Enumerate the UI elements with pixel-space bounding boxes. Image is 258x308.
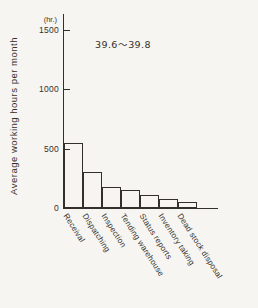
plot-area bbox=[63, 14, 218, 209]
bar-receival bbox=[64, 143, 83, 208]
bar-status-reports bbox=[140, 195, 159, 208]
y-tick-label: 1000 bbox=[19, 84, 59, 94]
bar-dispatching bbox=[83, 172, 102, 208]
bar-chart-figure: Average working hours per month (hr.) 39… bbox=[0, 0, 258, 308]
y-tick-mark bbox=[64, 89, 70, 90]
y-tick-label: 0 bbox=[19, 203, 59, 213]
y-axis-title: Average working hours per month bbox=[8, 37, 19, 195]
y-tick-mark bbox=[64, 149, 70, 150]
y-tick-label: 500 bbox=[19, 144, 59, 154]
y-tick-mark bbox=[64, 30, 70, 31]
bar-tending-warehouse bbox=[121, 190, 140, 208]
bar-inspection bbox=[102, 187, 121, 208]
bar-inventory-taking bbox=[159, 199, 178, 208]
bar-dead-stock-disposal bbox=[178, 202, 197, 208]
y-axis-unit-label: (hr.) bbox=[17, 15, 57, 24]
y-tick-label: 1500 bbox=[19, 25, 59, 35]
